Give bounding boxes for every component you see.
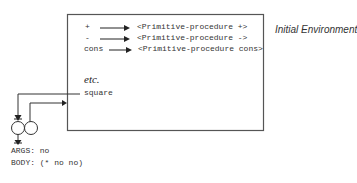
binding-name-square: square — [84, 88, 113, 97]
binding-arrow-plus — [100, 25, 130, 31]
square-binding-pointer — [14, 94, 80, 121]
binding-value-plus: <Primitive-procedure +> — [137, 22, 247, 31]
etc-label: etc. — [84, 73, 100, 85]
binding-value-cons: <Primitive-procedure cons> — [138, 44, 263, 53]
binding-arrow-minus — [100, 36, 130, 42]
environment-title: Initial Environment — [275, 24, 357, 35]
binding-arrow-cons — [109, 47, 132, 53]
binding-name-minus: - — [85, 33, 90, 42]
binding-name-cons: cons — [84, 44, 103, 53]
procedure-circle-env — [25, 122, 38, 135]
binding-name-plus: + — [85, 22, 90, 31]
binding-value-minus: <Primitive-procedure -> — [137, 33, 247, 42]
procedure-body: BODY: (* no no) — [11, 158, 83, 167]
procedure-env-pointer — [30, 100, 67, 122]
procedure-code-pointer — [14, 134, 22, 145]
procedure-args: ARGS: no — [11, 146, 49, 155]
procedure-circle-code — [12, 122, 25, 135]
